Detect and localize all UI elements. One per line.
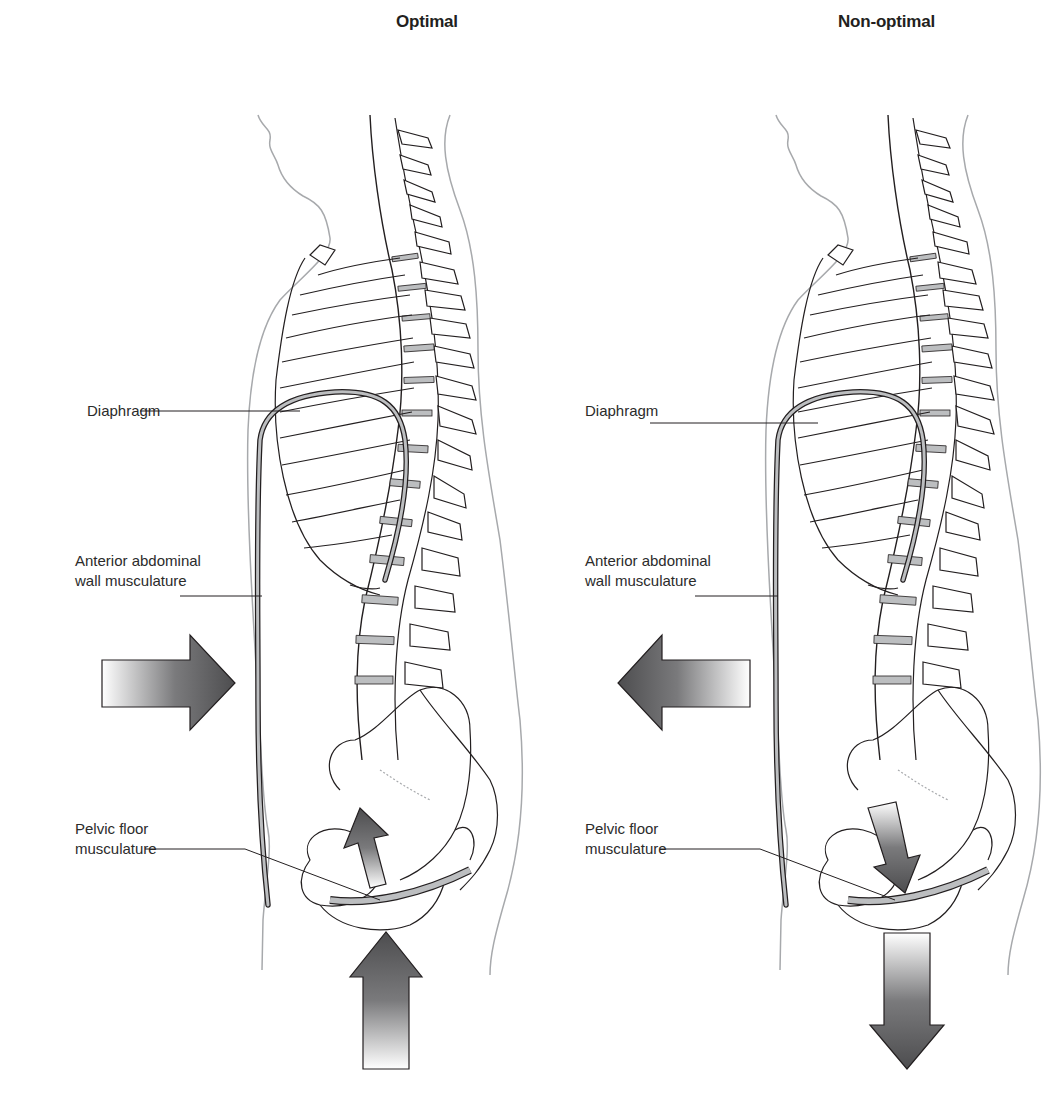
pelvic-leader-line (660, 849, 895, 900)
arrow-left-icon (618, 635, 750, 730)
arrow-up-pelvic-icon (344, 808, 388, 888)
arrow-down-icon (870, 933, 944, 1069)
non-optimal-panel (618, 115, 1040, 1069)
arrow-right-icon (102, 635, 235, 730)
optimal-panel (102, 115, 522, 1069)
anatomy-figure (0, 0, 1049, 1095)
arrow-down-pelvic-icon (868, 802, 920, 893)
arrow-up-icon (350, 932, 422, 1069)
